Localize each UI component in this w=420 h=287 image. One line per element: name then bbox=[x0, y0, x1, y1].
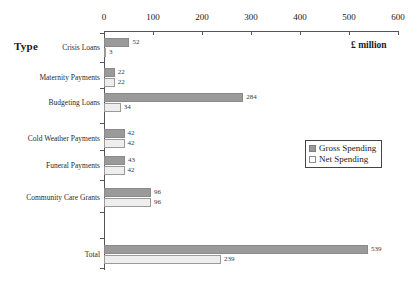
bar-value-label: 96 bbox=[154, 188, 161, 197]
bar-value-label: 42 bbox=[128, 139, 135, 148]
y-tick-1 bbox=[100, 62, 104, 63]
bar-net bbox=[104, 255, 221, 264]
legend-swatch-net-icon bbox=[309, 156, 316, 163]
bar-gross bbox=[104, 68, 115, 77]
y-tick-0 bbox=[100, 33, 104, 34]
bar-value-label: 96 bbox=[154, 198, 161, 207]
bar-gross bbox=[104, 188, 151, 197]
category-label-row: Community Care Grants bbox=[0, 193, 104, 203]
category-label-row: Cold Weather Payments bbox=[0, 134, 104, 144]
x-axis-unit-label: £ million bbox=[351, 40, 387, 50]
x-tick-500 bbox=[349, 31, 350, 35]
y-tick-8 bbox=[100, 268, 104, 269]
y-tick-6 bbox=[100, 212, 104, 213]
category-label-row: Crisis Loans bbox=[0, 43, 104, 53]
category-label: Cold Weather Payments bbox=[8, 134, 104, 143]
bar-value-label: 539 bbox=[371, 245, 382, 254]
category-label: Community Care Grants bbox=[8, 193, 104, 202]
bar-gross bbox=[104, 156, 125, 165]
bar-value-label: 52 bbox=[132, 38, 139, 47]
y-axis-line bbox=[104, 31, 105, 270]
category-label: Total bbox=[8, 250, 104, 259]
x-tick-100 bbox=[153, 31, 154, 35]
bar-value-label: 3 bbox=[109, 48, 113, 57]
bar-value-label: 34 bbox=[124, 103, 131, 112]
x-tick-400 bbox=[300, 31, 301, 35]
x-tick-label-600: 600 bbox=[378, 12, 418, 22]
category-label: Maternity Payments bbox=[8, 73, 104, 82]
bar-gross bbox=[104, 38, 129, 47]
y-tick-4 bbox=[100, 150, 104, 151]
bar-net bbox=[104, 103, 121, 112]
legend-item-net-spending: Net Spending bbox=[309, 154, 378, 165]
bar-net bbox=[104, 78, 115, 87]
legend-swatch-gross-icon bbox=[309, 145, 316, 152]
chart-legend: Gross Spending Net Spending bbox=[305, 140, 382, 168]
bar-value-label: 284 bbox=[246, 93, 257, 102]
bar-chart: Type £ million 0100200300400500600 Crisi… bbox=[0, 0, 420, 287]
legend-label-gross: Gross Spending bbox=[319, 143, 376, 154]
x-tick-600 bbox=[398, 31, 399, 35]
x-tick-200 bbox=[202, 31, 203, 35]
category-label-row: Maternity Payments bbox=[0, 73, 104, 83]
legend-item-gross-spending: Gross Spending bbox=[309, 143, 378, 154]
bar-gross bbox=[104, 245, 368, 254]
bar-value-label: 239 bbox=[224, 255, 235, 264]
x-tick-label-100: 100 bbox=[133, 12, 173, 22]
category-label-row: Budgeting Loans bbox=[0, 98, 104, 108]
x-tick-label-0: 0 bbox=[84, 12, 124, 22]
bar-net bbox=[104, 48, 106, 57]
y-tick-5 bbox=[100, 180, 104, 181]
bar-net bbox=[104, 166, 125, 175]
y-tick-3 bbox=[100, 123, 104, 124]
x-tick-0 bbox=[104, 31, 105, 35]
bar-value-label: 22 bbox=[118, 68, 125, 77]
category-label-row: Total bbox=[0, 250, 104, 260]
x-tick-label-500: 500 bbox=[329, 12, 369, 22]
bar-value-label: 42 bbox=[128, 129, 135, 138]
bar-net bbox=[104, 198, 151, 207]
y-tick-7 bbox=[100, 238, 104, 239]
category-label: Budgeting Loans bbox=[8, 98, 104, 107]
y-tick-2 bbox=[100, 88, 104, 89]
x-tick-label-400: 400 bbox=[280, 12, 320, 22]
category-label: Funeral Payments bbox=[8, 161, 104, 170]
category-label-row: Funeral Payments bbox=[0, 161, 104, 171]
x-tick-label-200: 200 bbox=[182, 12, 222, 22]
bar-gross bbox=[104, 129, 125, 138]
bar-value-label: 22 bbox=[118, 78, 125, 87]
x-tick-300 bbox=[251, 31, 252, 35]
legend-label-net: Net Spending bbox=[319, 154, 368, 165]
x-tick-label-300: 300 bbox=[231, 12, 271, 22]
bar-net bbox=[104, 139, 125, 148]
bar-value-label: 42 bbox=[128, 166, 135, 175]
bar-gross bbox=[104, 93, 243, 102]
bar-value-label: 43 bbox=[128, 156, 135, 165]
category-label: Crisis Loans bbox=[8, 43, 104, 52]
